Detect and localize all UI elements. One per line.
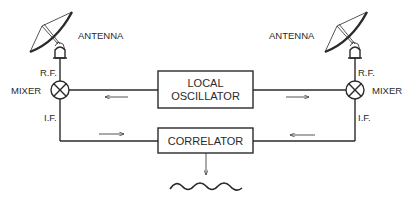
left-antenna-icon bbox=[30, 12, 72, 58]
right-mixer-icon bbox=[346, 81, 364, 99]
left-rf-label: R.F. bbox=[40, 67, 57, 78]
lo-label-line1: LOCAL bbox=[187, 77, 223, 89]
fringe-wave-icon bbox=[170, 183, 242, 190]
correlator-label: CORRELATOR bbox=[168, 135, 243, 147]
left-antenna-label: ANTENNA bbox=[78, 30, 124, 41]
left-mixer-icon bbox=[51, 81, 69, 99]
lo-label-line2: OSCILLATOR bbox=[171, 90, 240, 102]
right-rf-label: R.F. bbox=[358, 67, 375, 78]
left-if-label: I.F. bbox=[44, 112, 57, 123]
interferometer-diagram: LOCAL OSCILLATOR CORRELATOR ANTENNA R.F.… bbox=[0, 0, 416, 206]
left-mixer-label: MIXER bbox=[11, 85, 41, 96]
right-mixer-label: MIXER bbox=[372, 85, 402, 96]
right-antenna-label: ANTENNA bbox=[269, 30, 315, 41]
right-antenna-icon bbox=[325, 12, 367, 58]
right-if-label: I.F. bbox=[358, 112, 371, 123]
